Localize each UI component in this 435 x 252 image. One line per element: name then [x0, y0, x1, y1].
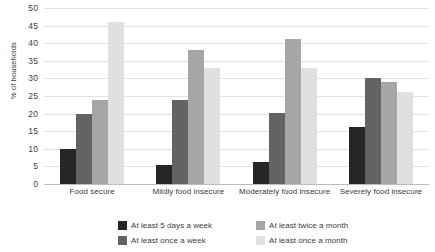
bar-group-bars: [237, 8, 333, 184]
bar: [172, 100, 188, 184]
legend-swatch: [256, 221, 265, 230]
legend-label: At least once a month: [269, 236, 347, 245]
bar: [285, 39, 301, 184]
bar: [204, 68, 220, 184]
bar: [108, 22, 124, 184]
legend-item: At least once a month: [256, 234, 388, 247]
bar-group-bars: [333, 8, 429, 184]
bar-group: [140, 8, 236, 184]
y-tick-label: 15: [28, 126, 38, 136]
y-tick-label: 45: [28, 21, 38, 31]
y-tick-label: 30: [28, 73, 38, 83]
bar-group-bars: [140, 8, 236, 184]
x-axis-label: Mildly food insecure: [140, 187, 236, 197]
axis-baseline: [44, 184, 429, 185]
y-axis-ticks: 50454035302520151050: [0, 8, 44, 184]
legend-swatch: [256, 236, 265, 245]
bar: [365, 78, 381, 184]
legend-label: At least once a week: [131, 236, 206, 245]
legend-swatch: [118, 236, 127, 245]
bar-group-bars: [44, 8, 140, 184]
bar-group: [44, 8, 140, 184]
legend-swatch: [118, 221, 127, 230]
y-tick-label: 35: [28, 56, 38, 66]
bar: [269, 113, 285, 184]
bar-groups: [44, 8, 429, 184]
legend-label: At least 5 days a week: [131, 221, 212, 230]
bar: [76, 114, 92, 184]
x-axis-label: Severely food insecure: [333, 187, 429, 197]
y-tick-label: 20: [28, 109, 38, 119]
bar: [349, 127, 365, 184]
y-tick-label: 5: [33, 161, 38, 171]
legend-label: At least twice a month: [269, 221, 348, 230]
bar: [397, 92, 413, 184]
bar: [60, 149, 76, 184]
bar-chart: % of households 50454035302520151050 Foo…: [0, 0, 435, 252]
y-tick-label: 10: [28, 144, 38, 154]
legend-item: At least once a week: [118, 234, 250, 247]
x-axis-labels: Food secureMildly food insecureModeratel…: [44, 187, 429, 197]
x-axis-label: Moderately food insecure: [237, 187, 333, 197]
bar-group: [237, 8, 333, 184]
bar: [301, 68, 317, 184]
x-axis-label: Food secure: [44, 187, 140, 197]
bar: [92, 100, 108, 184]
legend-item: At least twice a month: [256, 219, 388, 232]
y-tick-label: 50: [28, 3, 38, 13]
bar: [188, 50, 204, 184]
bar-group: [333, 8, 429, 184]
plot-area: 50454035302520151050: [44, 8, 429, 184]
bar: [156, 165, 172, 184]
legend-item: At least 5 days a week: [118, 219, 250, 232]
bar: [381, 82, 397, 184]
chart-legend: At least 5 days a weekAt least twice a m…: [118, 219, 388, 247]
bar: [253, 162, 269, 184]
y-tick-label: 40: [28, 38, 38, 48]
y-tick-label: 0: [33, 179, 38, 189]
y-tick-label: 25: [28, 91, 38, 101]
